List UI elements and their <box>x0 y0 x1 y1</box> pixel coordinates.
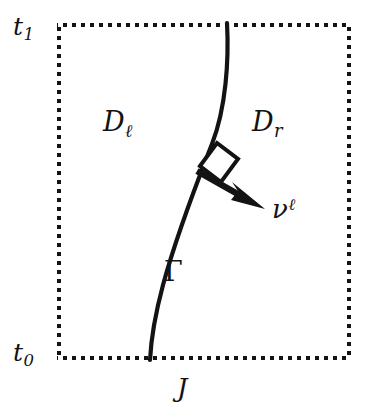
interface-curve-gamma <box>150 23 228 360</box>
label-normal-vector: νℓ <box>272 196 295 222</box>
label-interface-curve: Γ <box>164 258 183 285</box>
label-time-upper: t1 <box>13 14 34 44</box>
label-domain-right-base: D <box>252 106 274 137</box>
label-time-upper-subscript: 1 <box>23 25 34 44</box>
label-time-lower-base: t <box>13 338 23 367</box>
label-domain-right-subscript: r <box>274 120 283 141</box>
label-normal-vector-superscript: ℓ <box>288 195 295 214</box>
diagram-vector-layer <box>0 0 374 419</box>
label-time-lower: t0 <box>13 340 34 370</box>
label-domain-left-base: D <box>103 106 125 137</box>
label-domain-right: Dr <box>252 108 283 140</box>
boundary-rectangle <box>57 23 351 360</box>
label-domain-left: Dℓ <box>103 108 132 140</box>
label-time-lower-subscript: 0 <box>23 351 34 370</box>
label-normal-vector-base: ν <box>272 194 288 224</box>
label-domain-left-subscript: ℓ <box>125 120 133 141</box>
boundary-edge-bottom <box>57 356 351 360</box>
label-spatial-axis: J <box>177 375 187 401</box>
boundary-edge-top <box>57 23 351 27</box>
boundary-edge-left <box>57 23 61 360</box>
normal-vector-arrow <box>197 171 265 209</box>
label-interface-curve-base: Γ <box>164 256 183 287</box>
figure-canvas: t1 t0 Dℓ Dr νℓ Γ J <box>0 0 374 419</box>
arrow-head <box>231 182 265 209</box>
label-spatial-axis-base: J <box>177 373 187 403</box>
label-time-upper-base: t <box>13 12 23 41</box>
boundary-edge-right <box>347 23 351 360</box>
